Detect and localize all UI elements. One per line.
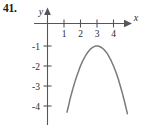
x-tick-label-3: 3 bbox=[95, 29, 100, 39]
figure-container: 41. 1 2 3 4 -1 -2 -3 -4 y x bbox=[0, 0, 143, 125]
y-tick-label-2: -2 bbox=[32, 62, 40, 72]
x-tick-label-2: 2 bbox=[78, 29, 83, 39]
y-tick-label-4: -4 bbox=[32, 102, 40, 112]
y-axis-arrow-icon bbox=[44, 8, 51, 16]
y-tick-label-1: -1 bbox=[32, 42, 40, 52]
parabola-curve bbox=[67, 46, 127, 114]
x-axis-arrow-icon bbox=[124, 20, 132, 27]
x-tick-label-1: 1 bbox=[62, 29, 67, 39]
x-tick-label-4: 4 bbox=[111, 29, 116, 39]
y-axis-label: y bbox=[38, 6, 44, 17]
y-tick-label-3: -3 bbox=[32, 82, 40, 92]
x-axis-label: x bbox=[133, 12, 139, 23]
graph-plot: 1 2 3 4 -1 -2 -3 -4 y x bbox=[0, 0, 143, 125]
